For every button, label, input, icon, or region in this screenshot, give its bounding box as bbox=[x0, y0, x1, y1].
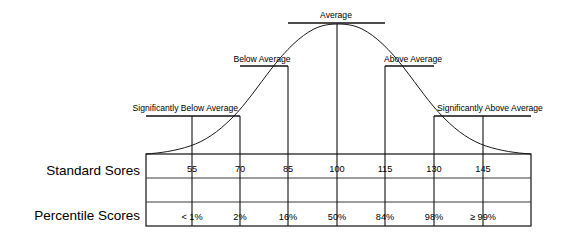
band-label-above-average: Above Average bbox=[384, 54, 442, 64]
standard-score-value: 115 bbox=[378, 164, 393, 174]
percentile-score-value: ≥ 99% bbox=[470, 212, 496, 222]
percentile-score-value: 50% bbox=[328, 212, 346, 222]
row-title-percentile-scores: Percentile Scores bbox=[34, 208, 140, 223]
standard-score-value: 100 bbox=[329, 164, 344, 174]
bell-curve-diagram: Average Below Average Above Average Sign… bbox=[0, 0, 583, 248]
row-title-standard-scores: Standard Sores bbox=[46, 163, 140, 178]
percentile-score-value: 2% bbox=[233, 212, 246, 222]
standard-score-value: 130 bbox=[426, 164, 441, 174]
standard-score-value: 55 bbox=[187, 164, 197, 174]
distribution-chart-canvas: Average Below Average Above Average Sign… bbox=[0, 0, 583, 248]
bell-curve-path bbox=[146, 24, 531, 154]
band-label-average: Average bbox=[320, 10, 352, 20]
band-label-below-average: Below Average bbox=[233, 54, 290, 64]
percentile-score-value: < 1% bbox=[181, 212, 202, 222]
standard-score-value: 70 bbox=[235, 164, 245, 174]
band-label-significantly-below-average: Significantly Below Average bbox=[133, 103, 239, 113]
percentile-score-value: 98% bbox=[425, 212, 443, 222]
percentile-score-value: 16% bbox=[279, 212, 297, 222]
standard-score-value: 145 bbox=[475, 164, 490, 174]
standard-score-value: 85 bbox=[283, 164, 293, 174]
percentile-score-value: 84% bbox=[376, 212, 394, 222]
band-label-significantly-above-average: Significantly Above Average bbox=[437, 103, 543, 113]
